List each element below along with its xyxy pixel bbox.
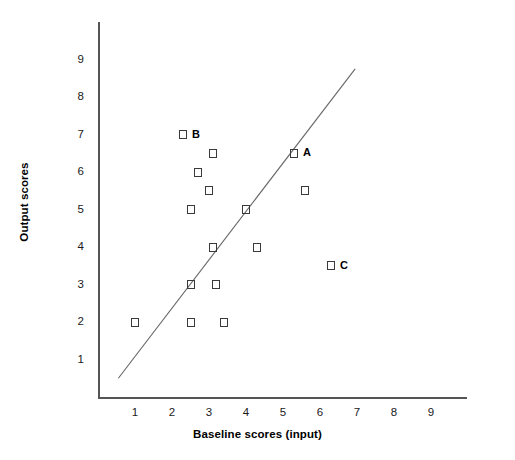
data-point — [301, 186, 309, 195]
x-tick-3: 3 — [198, 406, 220, 419]
data-point — [209, 149, 217, 158]
data-point — [194, 168, 202, 177]
data-point-A — [290, 149, 298, 158]
point-label-B: B — [192, 129, 200, 140]
trend-line — [0, 0, 515, 460]
x-tick-5: 5 — [272, 406, 294, 419]
x-axis-line — [98, 397, 467, 399]
data-point — [212, 280, 220, 289]
data-point — [205, 186, 213, 195]
point-label-C: C — [340, 260, 348, 271]
y-tick-4: 4 — [62, 240, 84, 253]
data-point-C — [327, 261, 335, 270]
y-tick-6: 6 — [62, 165, 84, 178]
x-tick-6: 6 — [309, 406, 331, 419]
data-point — [187, 318, 195, 327]
data-point — [209, 243, 217, 252]
x-tick-2: 2 — [161, 406, 183, 419]
data-point — [131, 318, 139, 327]
x-tick-4: 4 — [235, 406, 257, 419]
data-point — [220, 318, 228, 327]
x-tick-8: 8 — [383, 406, 405, 419]
data-point-B — [179, 130, 187, 139]
x-tick-9: 9 — [420, 406, 442, 419]
y-tick-3: 3 — [62, 278, 84, 291]
data-point — [187, 205, 195, 214]
y-axis-title: Output scores — [18, 142, 30, 262]
data-point — [242, 205, 250, 214]
y-axis-line — [98, 22, 100, 398]
x-axis-title: Baseline scores (input) — [0, 428, 515, 440]
data-point — [187, 280, 195, 289]
scatter-plot-figure: 123456789 123456789 BAC Baseline scores … — [0, 0, 515, 460]
y-tick-2: 2 — [62, 315, 84, 328]
point-label-A: A — [303, 147, 311, 158]
y-tick-7: 7 — [62, 128, 84, 141]
y-tick-8: 8 — [62, 90, 84, 103]
x-tick-7: 7 — [346, 406, 368, 419]
y-tick-9: 9 — [62, 53, 84, 66]
x-tick-1: 1 — [124, 406, 146, 419]
y-tick-5: 5 — [62, 203, 84, 216]
data-point — [253, 243, 261, 252]
y-tick-1: 1 — [62, 353, 84, 366]
